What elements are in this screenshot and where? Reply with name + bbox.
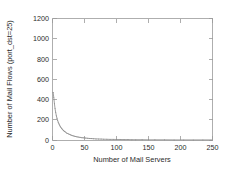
data-point bbox=[202, 139, 203, 140]
data-point bbox=[89, 138, 90, 139]
data-point bbox=[93, 138, 94, 139]
data-point bbox=[59, 125, 60, 126]
data-point bbox=[120, 139, 121, 140]
data-point bbox=[58, 122, 59, 123]
data-point bbox=[128, 139, 129, 140]
x-tick-label: 50 bbox=[81, 143, 89, 152]
data-point bbox=[148, 139, 149, 140]
y-tick-label: 0 bbox=[45, 136, 49, 145]
x-axis-ticks bbox=[53, 19, 213, 141]
y-tick-label: 800 bbox=[37, 55, 49, 64]
data-point bbox=[53, 97, 54, 98]
y-tick-label: 1200 bbox=[33, 14, 49, 23]
data-point bbox=[78, 137, 79, 138]
data-point bbox=[87, 138, 88, 139]
data-point bbox=[76, 136, 77, 137]
data-point bbox=[80, 137, 81, 138]
y-tick-label: 200 bbox=[37, 115, 49, 124]
data-point bbox=[56, 118, 57, 119]
chart-figure: 0 200 400 600 800 1000 1200 0 50 100 150… bbox=[0, 0, 230, 171]
data-point bbox=[69, 134, 70, 135]
data-point bbox=[54, 103, 55, 104]
data-point bbox=[61, 128, 62, 129]
data-point bbox=[55, 108, 56, 109]
data-point bbox=[66, 132, 67, 133]
data-point bbox=[60, 127, 61, 128]
data-point bbox=[56, 115, 57, 116]
data-curve bbox=[53, 92, 211, 139]
data-point bbox=[96, 138, 97, 139]
data-point bbox=[83, 137, 84, 138]
data-point bbox=[211, 139, 212, 140]
y-tick-label: 1000 bbox=[33, 34, 49, 43]
data-point bbox=[60, 126, 61, 127]
data-point bbox=[58, 123, 59, 124]
y-axis-title: Number of Mail Flows (port_dst=25) bbox=[5, 20, 14, 138]
x-tick-label: 0 bbox=[51, 143, 55, 152]
data-point bbox=[74, 136, 75, 137]
data-point bbox=[98, 138, 99, 139]
data-point bbox=[135, 139, 136, 140]
data-point bbox=[103, 139, 104, 140]
x-tick-label: 250 bbox=[207, 143, 219, 152]
data-point bbox=[67, 133, 68, 134]
data-point bbox=[113, 139, 114, 140]
plot-frame bbox=[53, 19, 213, 141]
data-point bbox=[75, 136, 76, 137]
data-point bbox=[53, 92, 54, 93]
data-point bbox=[65, 132, 66, 133]
data-point bbox=[131, 139, 132, 140]
data-point bbox=[91, 138, 92, 139]
data-point bbox=[55, 112, 56, 113]
data-point bbox=[142, 139, 143, 140]
data-point bbox=[110, 139, 111, 140]
x-tick-label: 200 bbox=[175, 143, 187, 152]
y-axis-ticks bbox=[53, 19, 213, 141]
data-point bbox=[124, 139, 125, 140]
data-point bbox=[71, 135, 72, 136]
data-point bbox=[154, 139, 155, 140]
y-tick-labels: 0 200 400 600 800 1000 1200 bbox=[33, 14, 49, 145]
data-point bbox=[116, 139, 117, 140]
data-point bbox=[174, 139, 175, 140]
data-point bbox=[101, 139, 102, 140]
data-point bbox=[183, 139, 184, 140]
data-point bbox=[106, 139, 107, 140]
x-axis-title: Number of Mail Servers bbox=[93, 155, 171, 164]
data-series-layer bbox=[53, 92, 212, 140]
data-point bbox=[193, 139, 194, 140]
data-point bbox=[70, 134, 71, 135]
y-tick-label: 600 bbox=[37, 75, 49, 84]
y-tick-label: 400 bbox=[37, 95, 49, 104]
data-point bbox=[72, 135, 73, 136]
data-point bbox=[57, 120, 58, 121]
x-tick-label: 150 bbox=[143, 143, 155, 152]
data-point bbox=[85, 138, 86, 139]
data-point bbox=[164, 139, 165, 140]
x-tick-labels: 0 50 100 150 200 250 bbox=[51, 143, 219, 152]
data-point bbox=[81, 137, 82, 138]
x-tick-label: 100 bbox=[111, 143, 123, 152]
